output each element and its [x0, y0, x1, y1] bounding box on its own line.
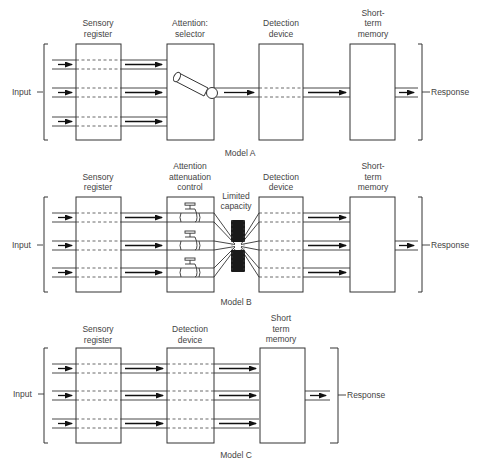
model-c-stage2-label2: device: [178, 335, 203, 345]
model-a-response-label: Response: [431, 87, 470, 97]
model-c-stage3-label3: memory: [266, 334, 297, 344]
attention-models-diagram: Sensory register Attention: selector Det…: [0, 0, 489, 466]
model-b-input-label: Input: [12, 240, 32, 250]
model-c-input-bracket: [44, 348, 48, 443]
model-a-stage2-label1: Attention:: [172, 18, 208, 28]
model-b-stage1-label1: Sensory: [82, 172, 114, 182]
model-a-stage4-label2: term: [365, 18, 382, 28]
model-c-short-term-memory-box: [260, 348, 305, 443]
model-c-response-label: Response: [347, 390, 386, 400]
model-a-short-term-memory-box: [350, 44, 395, 140]
model-b-stage4-label1: Short-: [361, 161, 384, 171]
model-b-stage2-label3: control: [177, 182, 203, 192]
model-c-stage1-label2: register: [84, 335, 113, 345]
model-b-sensory-register-box: [76, 197, 121, 292]
model-c-response-bracket: [330, 348, 338, 443]
model-a-stage4-label3: memory: [358, 29, 389, 39]
model-b-stage1-label2: register: [84, 182, 113, 192]
model-b: Sensory register Attention attenuation c…: [12, 161, 470, 307]
model-a: Sensory register Attention: selector Det…: [12, 8, 470, 158]
model-b-stage3-label1: Detection: [263, 172, 299, 182]
model-a-stage2-label2: selector: [175, 29, 205, 39]
model-c: Sensory register Detection device Short …: [13, 313, 386, 460]
model-b-bottleneck-label1: Limited: [222, 191, 250, 201]
model-c-stage2-label1: Detection: [172, 324, 208, 334]
model-b-attenuation-control-box: [167, 197, 214, 292]
model-b-caption: Model B: [220, 297, 252, 307]
model-a-stage1-label2: register: [84, 29, 113, 39]
model-b-short-term-memory-box: [350, 197, 395, 292]
model-b-response-label: Response: [431, 240, 470, 250]
model-b-detection-device-box: [259, 197, 303, 292]
limited-capacity-bottleneck: [231, 220, 245, 272]
model-b-stage3-label2: device: [269, 182, 294, 192]
model-b-stage4-label3: memory: [358, 182, 389, 192]
model-c-caption: Model C: [220, 450, 252, 460]
model-c-stage1-label1: Sensory: [82, 324, 114, 334]
model-a-response-bracket: [418, 44, 422, 140]
model-b-stage2-label1: Attention: [173, 161, 207, 171]
model-c-detection-device-box: [167, 348, 214, 443]
model-c-stage3-label1: Short: [271, 313, 292, 323]
model-a-stage4-label1: Short-: [361, 8, 384, 18]
model-c-stage3-label2: term: [273, 324, 290, 334]
model-a-stage3-label2: device: [269, 29, 294, 39]
model-b-stage4-label2: term: [365, 172, 382, 182]
model-a-stage3-label1: Detection: [263, 18, 299, 28]
model-b-bottleneck-label2: capacity: [220, 201, 252, 211]
model-a-detection-device-box: [259, 44, 303, 140]
valve-icon: [180, 203, 200, 277]
model-a-input-bracket: [44, 44, 48, 140]
model-b-input-bracket: [44, 197, 48, 292]
model-a-input-label: Input: [12, 87, 32, 97]
model-b-response-bracket: [418, 197, 422, 292]
model-a-caption: Model A: [225, 148, 256, 158]
model-a-stage1-label1: Sensory: [82, 18, 114, 28]
model-b-stage2-label2: attenuation: [169, 172, 211, 182]
model-c-sensory-register-box: [76, 348, 121, 443]
model-c-input-label: Input: [13, 389, 33, 399]
